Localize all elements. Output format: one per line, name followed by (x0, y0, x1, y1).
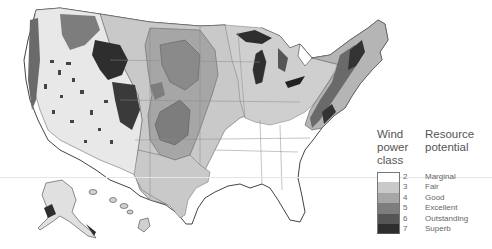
legend-class-number: 4 (403, 193, 407, 203)
legend-title-line: potential (425, 141, 492, 154)
legend-row-class-3: 3 Fair (377, 182, 492, 192)
legend-class-number: 2 (403, 172, 407, 182)
legend-label: Excellent (425, 203, 457, 213)
legend-class-number: 3 (403, 182, 407, 192)
legend-label: Marginal (425, 172, 456, 182)
legend-swatch (377, 182, 400, 192)
legend-title-line: Wind (377, 128, 417, 141)
legend-rows: 2 Marginal 3 Fair 4 Good 5 Excellent 6 O… (377, 172, 492, 234)
legend-label: Outstanding (425, 214, 468, 224)
legend-label: Good (425, 193, 445, 203)
legend-label: Superb (425, 224, 451, 234)
legend-title-line: class (377, 154, 417, 167)
legend-title-line: Resource (425, 128, 492, 141)
legend-label: Fair (425, 182, 439, 192)
legend-class-number: 5 (403, 203, 407, 213)
legend-title-line: power (377, 141, 417, 154)
legend-row-class-6: 6 Outstanding (377, 214, 492, 224)
legend-swatch (377, 214, 400, 224)
legend-swatch (377, 224, 400, 234)
legend-row-class-5: 5 Excellent (377, 203, 492, 213)
legend-swatch (377, 203, 400, 213)
legend-row-class-2: 2 Marginal (377, 172, 492, 182)
legend-swatch (377, 193, 400, 203)
legend-title-resource-potential: Resource potential (425, 128, 492, 154)
legend-title-wind-power-class: Wind power class (377, 128, 417, 167)
legend-row-class-4: 4 Good (377, 193, 492, 203)
legend-row-class-7: 7 Superb (377, 224, 492, 234)
legend-class-number: 6 (403, 214, 407, 224)
legend-class-number: 7 (403, 224, 407, 234)
legend-swatch (377, 172, 400, 182)
